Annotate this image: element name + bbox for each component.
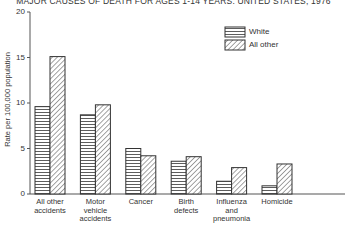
x-category-label: Homicide — [252, 198, 302, 207]
bar-white — [171, 161, 186, 194]
bar-white — [217, 181, 232, 194]
y-tick-label: 5 — [11, 144, 25, 153]
x-category-label: Influenzaandpneumonia — [207, 198, 257, 224]
y-tick-label: 10 — [11, 98, 25, 107]
bar-chart — [0, 0, 347, 226]
bar-all-other — [141, 156, 156, 194]
legend-swatch-all-other — [225, 40, 245, 50]
bar-all-other — [232, 168, 247, 194]
legend-swatch-white — [225, 27, 245, 37]
y-tick-label: 15 — [11, 53, 25, 62]
bars — [35, 57, 292, 194]
x-category-label: All otheraccidents — [25, 198, 75, 215]
bar-white — [262, 186, 277, 194]
bar-white — [80, 115, 95, 194]
bar-white — [35, 107, 50, 194]
legend-label: All other — [249, 40, 278, 49]
x-category-label: Cancer — [116, 198, 166, 207]
bar-all-other — [186, 157, 201, 194]
bar-all-other — [95, 105, 110, 194]
y-tick-label: 20 — [11, 7, 25, 16]
legend — [225, 27, 245, 50]
x-category-label: Motorvehicleaccidents — [70, 198, 120, 224]
bar-white — [126, 149, 141, 195]
x-category-label: Birthdefects — [161, 198, 211, 215]
legend-label: White — [249, 27, 269, 36]
bar-all-other — [277, 164, 292, 194]
bar-all-other — [50, 57, 65, 194]
y-tick-label: 0 — [11, 189, 25, 198]
